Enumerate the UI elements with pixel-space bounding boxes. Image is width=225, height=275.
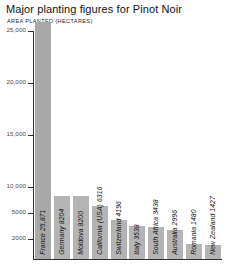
bar[interactable] xyxy=(111,220,127,259)
bar[interactable] xyxy=(205,245,221,259)
bar[interactable] xyxy=(167,230,183,259)
bar[interactable] xyxy=(186,244,202,259)
bar[interactable] xyxy=(35,22,51,259)
bar-column[interactable]: California (USA) 6316 xyxy=(92,28,108,259)
bar[interactable] xyxy=(73,196,89,259)
y-axis-tick-label: 10,000 xyxy=(6,182,26,189)
bar[interactable] xyxy=(129,226,145,259)
y-axis-tick-mark xyxy=(28,213,33,214)
y-axis-tick-mark xyxy=(28,187,33,188)
y-axis-tick-mark xyxy=(28,31,33,32)
bar-column[interactable]: Italy 3538 xyxy=(129,28,145,259)
y-axis-tick-mark xyxy=(28,239,33,240)
y-axis-tick-label: 20,000 xyxy=(6,78,26,85)
bar-column[interactable]: Australia 2996 xyxy=(167,28,183,259)
y-axis-tick-label: 25,000 xyxy=(6,26,26,33)
bar[interactable] xyxy=(92,206,108,259)
y-axis-tick-mark xyxy=(28,135,33,136)
bar-column[interactable]: New Zealand 1427 xyxy=(205,28,221,259)
chart-title: Major planting figures for Pinot Noir xyxy=(6,3,182,15)
bars-layer: France 25,871Germany 8204Moldova 8200Cal… xyxy=(34,28,222,260)
bar-column[interactable]: Germany 8204 xyxy=(54,28,70,259)
bar[interactable] xyxy=(54,196,70,259)
plot-area: 25,00020,00015,00010,00050002000 France … xyxy=(33,28,222,260)
bar-column[interactable]: Switzerland 4196 xyxy=(111,28,127,259)
bar-column[interactable]: Romania 1480 xyxy=(186,28,202,259)
bar-column[interactable]: France 25,871 xyxy=(35,28,51,259)
y-axis-tick-label: 15,000 xyxy=(6,130,26,137)
y-axis-tick-label: 5000 xyxy=(12,208,26,215)
pinot-noir-bar-chart: Major planting figures for Pinot Noir AR… xyxy=(0,0,225,275)
y-axis-tick-label: 2000 xyxy=(12,234,26,241)
bar[interactable] xyxy=(148,227,164,259)
bar-column[interactable]: Moldova 8200 xyxy=(73,28,89,259)
y-axis-tick-mark xyxy=(28,83,33,84)
bar-column[interactable]: South Africa 3438 xyxy=(148,28,164,259)
